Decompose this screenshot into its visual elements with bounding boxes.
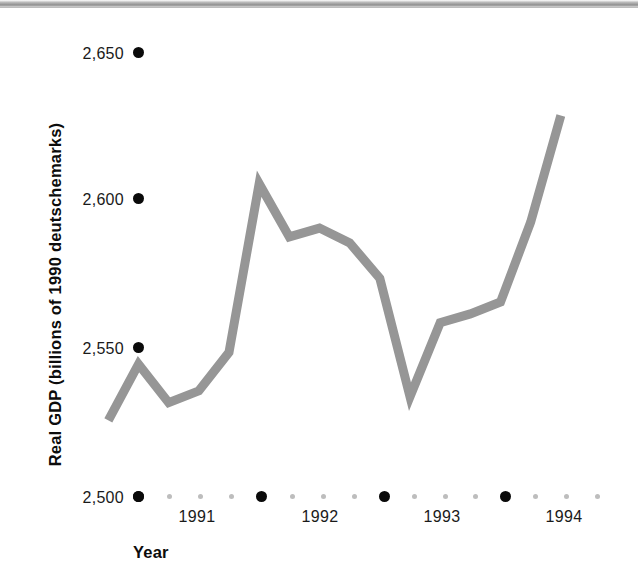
- gdp-line-chart-plot: [0, 0, 638, 579]
- chart-page: Real GDP (billions of 1990 deutschemarks…: [0, 0, 638, 579]
- gdp-data-line: [108, 116, 561, 421]
